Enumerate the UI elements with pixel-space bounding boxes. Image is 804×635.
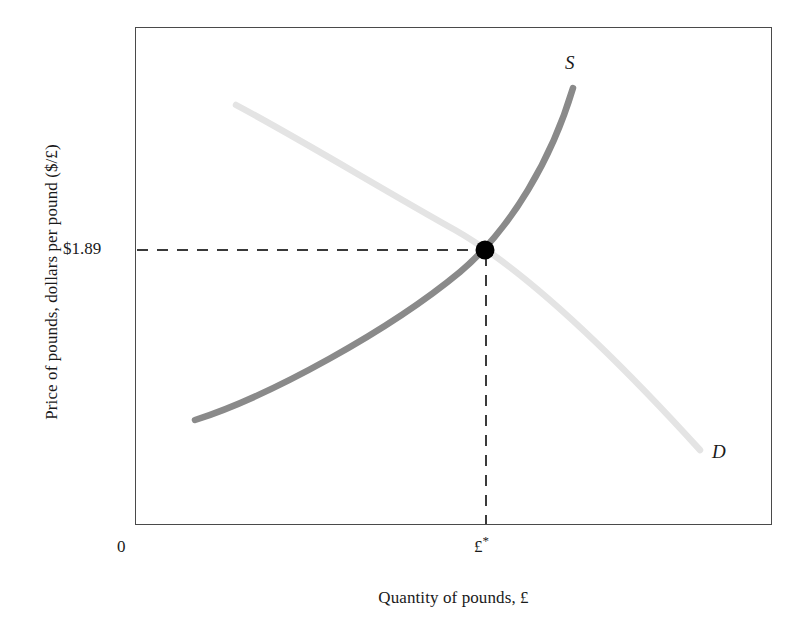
y-axis-title: Price of pounds, dollars per pound ($/£) — [42, 67, 62, 497]
origin-label: 0 — [117, 537, 126, 557]
quantity-tick-star: * — [483, 533, 490, 548]
figure-canvas: Price of pounds, dollars per pound ($/£)… — [0, 0, 804, 635]
demand-curve-label: D — [712, 441, 726, 463]
price-tick-label: $1.89 — [63, 239, 101, 259]
plot-frame — [135, 27, 772, 525]
quantity-tick-label: £* — [474, 537, 489, 557]
quantity-tick-symbol: £ — [474, 537, 483, 556]
supply-curve-label: S — [565, 52, 575, 74]
x-axis-title: Quantity of pounds, £ — [135, 588, 772, 608]
